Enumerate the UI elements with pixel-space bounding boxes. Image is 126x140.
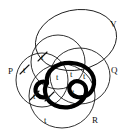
- set-label-Q: Q: [111, 65, 118, 75]
- venn-diagram-canvas: P Q R V t t t t t t: [0, 0, 126, 140]
- highlighted-region: [36, 63, 95, 108]
- set-label-V: V: [110, 19, 117, 29]
- venn-diagram: P Q R V t t t t t t: [0, 0, 126, 140]
- cell-p-only: t: [20, 65, 29, 75]
- cell-r-only-label: t: [44, 115, 47, 125]
- cell-q-v-label: t: [83, 71, 86, 81]
- set-label-P: P: [8, 66, 13, 76]
- set-label-R: R: [92, 115, 98, 125]
- cell-s-v-label: t: [56, 72, 59, 82]
